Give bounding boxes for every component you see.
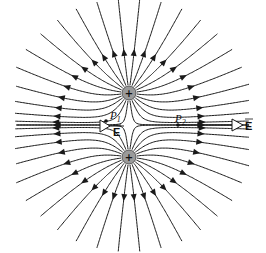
field-line bbox=[118, 0, 128, 85]
field-line bbox=[15, 133, 124, 151]
field-line bbox=[134, 9, 182, 87]
labels: P1 P2 E E bbox=[100, 109, 253, 138]
field-line bbox=[130, 165, 140, 252]
field-line-diagram: ++ P1 P2 E E bbox=[0, 0, 266, 253]
arrowhead-icon bbox=[81, 66, 88, 72]
positive-charge-2: + bbox=[122, 150, 136, 164]
arrowhead-icon bbox=[112, 192, 118, 200]
field-line bbox=[130, 0, 140, 85]
field-line bbox=[15, 99, 124, 117]
arrowhead-icon bbox=[53, 114, 60, 120]
point-p1: P1 bbox=[104, 109, 121, 124]
field-line bbox=[26, 49, 121, 92]
field-line bbox=[132, 164, 161, 248]
arrowhead-icon bbox=[197, 130, 204, 136]
field-line bbox=[135, 140, 249, 152]
arrowhead-icon bbox=[150, 188, 156, 196]
svg-text:+: + bbox=[125, 152, 133, 163]
field-line bbox=[76, 9, 124, 87]
arrowhead-icon bbox=[193, 149, 200, 155]
field-line bbox=[76, 163, 124, 241]
arrowhead-icon bbox=[121, 194, 127, 201]
arrowhead-icon bbox=[63, 159, 71, 165]
field-line bbox=[26, 158, 121, 201]
field-line bbox=[15, 140, 123, 152]
svg-text:+: + bbox=[125, 88, 133, 99]
arrowhead-icon bbox=[63, 85, 71, 91]
charges: ++ bbox=[122, 86, 136, 164]
arrowhead-icon bbox=[102, 188, 108, 196]
field-line bbox=[135, 98, 249, 110]
field-line bbox=[137, 158, 232, 201]
arrowhead-icon bbox=[150, 54, 156, 62]
p1-label: P1 bbox=[109, 109, 121, 124]
field-lines bbox=[15, 0, 249, 251]
e-label-p1: E bbox=[113, 126, 120, 138]
arrowhead-icon bbox=[55, 105, 62, 111]
arrowhead-icon bbox=[196, 139, 203, 145]
arrowhead-icon bbox=[169, 177, 176, 183]
field-line bbox=[15, 98, 123, 110]
arrowhead-icon bbox=[197, 114, 204, 120]
arrowhead-icon bbox=[102, 54, 108, 62]
field-line bbox=[97, 2, 126, 86]
arrowhead-icon bbox=[196, 105, 203, 111]
arrowhead-icon bbox=[187, 85, 195, 91]
field-line bbox=[132, 2, 161, 86]
field-line bbox=[137, 49, 232, 92]
positive-charge-1: + bbox=[122, 86, 136, 100]
arrowhead-icon bbox=[81, 177, 88, 183]
arrowhead-icon bbox=[140, 192, 146, 200]
field-line bbox=[97, 164, 126, 248]
arrowhead-icon bbox=[58, 149, 65, 155]
arrowhead-icon bbox=[187, 159, 195, 165]
arrowhead-icon bbox=[169, 66, 176, 72]
arrowhead-icon bbox=[112, 50, 118, 58]
e-label-p2: E bbox=[245, 120, 252, 132]
arrowhead-icon bbox=[58, 95, 65, 101]
arrowhead-icon bbox=[131, 49, 137, 56]
arrowhead-icon bbox=[131, 194, 137, 201]
arrowhead-icon bbox=[121, 49, 127, 56]
arrowhead-icon bbox=[55, 139, 62, 145]
arrowhead-icon bbox=[193, 95, 200, 101]
arrowhead-icon bbox=[140, 50, 146, 58]
arrowhead-icon bbox=[53, 130, 60, 136]
field-line bbox=[118, 165, 128, 252]
field-line bbox=[134, 163, 182, 241]
